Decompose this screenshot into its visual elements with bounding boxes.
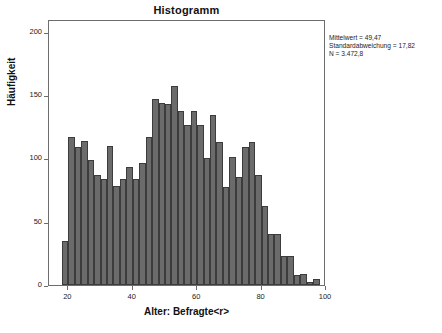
y-axis: 050100150200 xyxy=(0,20,48,286)
y-axis-tick: 100 xyxy=(0,159,48,160)
statistics-annotation: Mittelwert = 49,47 Standardabweichung = … xyxy=(329,34,441,59)
y-axis-tick: 0 xyxy=(0,286,48,287)
y-tick-label: 50 xyxy=(34,217,42,226)
y-tick-label: 200 xyxy=(29,27,42,36)
plot-area xyxy=(48,20,325,286)
x-tick-label: 40 xyxy=(122,292,142,301)
y-axis-tick: 50 xyxy=(0,223,48,224)
x-axis: 20406080100 xyxy=(48,286,325,306)
y-axis-tick: 150 xyxy=(0,96,48,97)
chart-title: Histogramm xyxy=(48,4,325,16)
x-tick-mark xyxy=(196,286,197,290)
x-tick-label: 100 xyxy=(315,292,335,301)
stat-mean: Mittelwert = 49,47 xyxy=(329,34,441,42)
x-axis-title: Alter: Befragte<r> xyxy=(48,306,325,317)
stat-n: N = 3.472,8 xyxy=(329,50,441,58)
histogram-bar xyxy=(313,279,319,285)
histogram-bars xyxy=(49,21,324,285)
x-tick-mark xyxy=(325,286,326,290)
stat-sd: Standardabweichung = 17,82 xyxy=(329,42,441,50)
y-axis-tick: 200 xyxy=(0,33,48,34)
y-tick-label: 150 xyxy=(29,90,42,99)
x-tick-label: 60 xyxy=(186,292,206,301)
histogram-chart: Histogramm Häufigkeit 050100150200 20406… xyxy=(0,0,442,333)
x-tick-label: 20 xyxy=(57,292,77,301)
y-tick-label: 100 xyxy=(29,153,42,162)
x-tick-label: 80 xyxy=(251,292,271,301)
x-tick-mark xyxy=(261,286,262,290)
y-tick-label: 0 xyxy=(38,280,42,289)
x-tick-mark xyxy=(67,286,68,290)
x-tick-mark xyxy=(132,286,133,290)
